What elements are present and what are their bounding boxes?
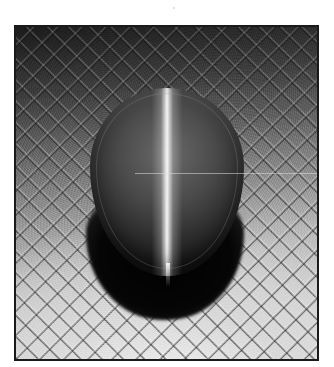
horizontal-scan-line (135, 173, 317, 174)
photo (14, 25, 319, 361)
dust-speck (173, 7, 175, 9)
page (0, 0, 334, 367)
gem-band-tip (166, 263, 170, 287)
